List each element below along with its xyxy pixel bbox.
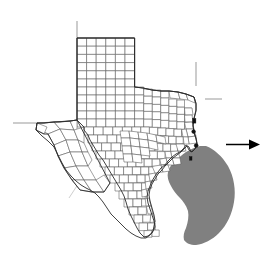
county-cell xyxy=(77,63,87,71)
county-cell xyxy=(87,111,97,119)
county-cell xyxy=(144,104,153,112)
figure-root: Texas county map with Gulf of Mexico Gul… xyxy=(0,0,277,255)
county-cell xyxy=(157,152,165,159)
county-cell xyxy=(177,100,185,107)
county-cell xyxy=(169,121,177,128)
county-cell xyxy=(144,111,153,119)
county-cell xyxy=(125,103,135,111)
county-cell xyxy=(125,71,135,79)
county-cell xyxy=(96,71,106,79)
county-cell xyxy=(106,87,116,95)
county-cell xyxy=(135,103,144,111)
county-cell xyxy=(161,113,169,121)
county-cell xyxy=(77,95,87,103)
county-cell xyxy=(138,207,146,214)
county-cell xyxy=(109,159,118,167)
county-cell xyxy=(107,135,117,143)
county-cell xyxy=(106,54,116,62)
county-cell xyxy=(169,136,177,143)
county-cell xyxy=(152,112,160,120)
county-cell xyxy=(128,175,137,183)
county-cell xyxy=(158,128,166,136)
county-cell xyxy=(177,114,185,121)
county-cell xyxy=(128,191,137,199)
county-cell xyxy=(96,54,106,62)
county-cell xyxy=(125,46,135,54)
county-cell xyxy=(115,63,125,71)
county-cell xyxy=(92,143,102,151)
county-cell xyxy=(131,146,141,155)
county-cell xyxy=(133,183,141,191)
county-cell xyxy=(77,87,87,95)
county-cell xyxy=(135,111,144,119)
county-cell xyxy=(87,46,97,54)
county-cell xyxy=(120,131,130,138)
county-cell xyxy=(87,79,97,87)
county-cell xyxy=(166,129,174,136)
county-cell xyxy=(115,79,125,87)
county-cell xyxy=(96,103,106,111)
county-cell xyxy=(115,46,125,54)
county-cell xyxy=(115,119,125,127)
county-cell xyxy=(77,38,87,46)
county-cell xyxy=(98,135,108,143)
county-cell xyxy=(176,137,183,144)
county-cell xyxy=(96,111,106,119)
county-cell xyxy=(169,106,177,113)
county-cell xyxy=(77,71,87,79)
county-cell xyxy=(87,54,97,62)
county-cell xyxy=(125,54,135,62)
county-cell xyxy=(161,120,169,128)
county-cell xyxy=(114,167,123,175)
county-cell xyxy=(165,151,172,158)
county-cell xyxy=(139,223,148,231)
county-cell xyxy=(103,127,113,135)
county-cell xyxy=(77,111,87,119)
county-cell xyxy=(185,115,194,122)
county-cell xyxy=(87,71,97,79)
county-cell xyxy=(125,111,135,119)
county-cell xyxy=(106,38,116,46)
county-cell xyxy=(115,95,125,103)
county-cell xyxy=(77,103,87,111)
county-cell xyxy=(96,38,106,46)
county-cell xyxy=(119,175,128,183)
county-cell xyxy=(96,63,106,71)
county-cell xyxy=(132,154,142,163)
pointer-arrow xyxy=(226,140,260,150)
county-cell xyxy=(106,46,116,54)
county-cell xyxy=(115,103,125,111)
marker-coastal-upper-icon xyxy=(192,130,196,134)
county-cell xyxy=(135,119,144,127)
county-cell xyxy=(106,111,116,119)
county-cell xyxy=(87,87,97,95)
county-cell xyxy=(102,143,112,151)
county-cell xyxy=(106,71,116,79)
county-cell xyxy=(132,167,140,175)
county-cell xyxy=(144,96,153,104)
county-cell xyxy=(125,63,135,71)
county-cell xyxy=(144,119,153,127)
county-cell xyxy=(169,114,177,121)
county-cell xyxy=(124,167,133,175)
county-cell xyxy=(84,127,94,135)
county-cell xyxy=(139,139,149,148)
county-cell xyxy=(183,137,189,144)
county-cell xyxy=(77,54,87,62)
county-cell xyxy=(115,87,125,95)
county-cell xyxy=(169,99,177,106)
county-cell xyxy=(87,63,97,71)
county-cell xyxy=(125,38,135,46)
texas-western-border xyxy=(37,38,77,123)
county-cell xyxy=(115,38,125,46)
county-cell xyxy=(115,54,125,62)
county-cell xyxy=(77,79,87,87)
county-cell xyxy=(137,175,145,182)
county-cell xyxy=(135,95,144,103)
county-cell xyxy=(144,159,152,166)
county-cell xyxy=(96,87,106,95)
county-cell xyxy=(149,151,157,158)
county-cell xyxy=(163,144,171,151)
county-cell xyxy=(94,127,104,135)
county-cell xyxy=(161,91,169,98)
